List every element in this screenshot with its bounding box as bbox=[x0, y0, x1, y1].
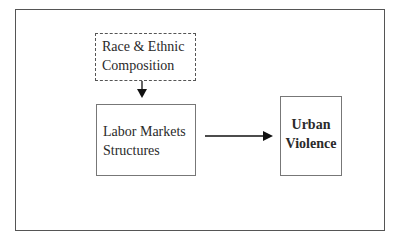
edges-layer bbox=[0, 0, 401, 243]
arrow-labor-to-urban bbox=[205, 131, 273, 141]
arrow-race-to-labor bbox=[137, 81, 147, 98]
